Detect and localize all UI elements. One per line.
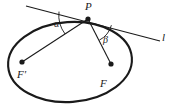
- focus-right-marker: [108, 61, 113, 66]
- geometry-canvas: [0, 0, 176, 107]
- label-angle-beta: β: [103, 35, 108, 45]
- tangent-line: [26, 6, 160, 41]
- focus-left-marker: [19, 59, 24, 64]
- label-focus-left: F': [17, 69, 26, 80]
- label-tangent-line: l: [162, 32, 165, 43]
- label-angle-alpha: α: [54, 19, 59, 29]
- ellipse-tangent-figure: P F' F α β l: [0, 0, 176, 107]
- label-focus-right: F: [100, 78, 107, 89]
- label-point-p: P: [85, 1, 92, 12]
- point-p-marker: [85, 16, 90, 21]
